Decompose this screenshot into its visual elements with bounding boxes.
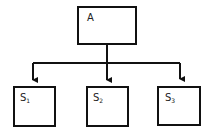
node-s1: S1 xyxy=(13,86,56,127)
node-s2-label: S2 xyxy=(93,93,103,104)
node-s3-label: S3 xyxy=(165,93,175,104)
node-a: A xyxy=(77,6,137,45)
node-s2: S2 xyxy=(86,86,129,127)
node-a-label: A xyxy=(87,13,94,23)
node-s1-label: S1 xyxy=(20,93,30,104)
node-s3: S3 xyxy=(157,86,201,126)
